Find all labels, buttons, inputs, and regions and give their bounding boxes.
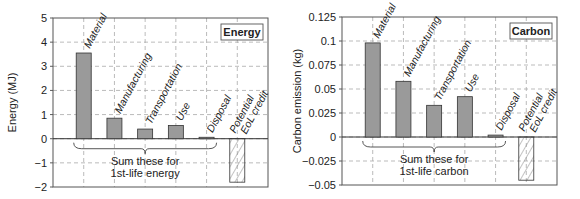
bar-material	[365, 43, 380, 137]
bar-manufacturing	[107, 118, 122, 139]
y-tick-label: 0.025	[308, 107, 336, 119]
bar-material	[76, 53, 91, 139]
category-label: Manufacturing	[401, 14, 443, 79]
y-tick-label: 0.075	[308, 59, 336, 71]
y-tick-label: 0	[41, 133, 47, 145]
bar-use	[168, 125, 183, 138]
category-label: Transportation	[431, 37, 473, 102]
annotation-line-2: 1st-life carbon	[400, 165, 469, 177]
annotation-line-1: Sum these for	[400, 153, 469, 165]
bar-disposal	[488, 135, 503, 137]
annotation-line-1: Sum these for	[111, 155, 180, 167]
energy-chart: 543210−1−2MaterialManufacturingTransport…	[6, 11, 271, 193]
legend-label: Carbon	[512, 25, 551, 37]
y-tick-label: −1	[34, 157, 47, 169]
y-axis-label: Energy (MJ)	[6, 73, 18, 133]
annotation-line-2: 1st-life energy	[111, 167, 181, 179]
y-tick-label: −0.05	[308, 179, 336, 191]
y-tick-label: 0.1	[321, 35, 336, 47]
category-label: Material	[370, 1, 398, 40]
y-axis-label: Carbon emission (kg)	[291, 49, 303, 154]
bar-transportation	[138, 129, 153, 139]
bar-potential-eol-credit	[230, 139, 245, 182]
bar-transportation	[427, 105, 442, 137]
category-label: Material	[81, 11, 109, 50]
y-tick-label: 3	[41, 60, 47, 72]
legend-label: Energy	[223, 26, 261, 38]
y-tick-label: −2	[34, 181, 47, 193]
y-tick-label: 4	[41, 36, 47, 48]
bar-use	[457, 97, 472, 137]
bar-potential-eol-credit	[519, 137, 534, 180]
y-tick-label: 5	[41, 12, 47, 24]
y-tick-label: 1	[41, 109, 47, 121]
y-tick-label: 0.05	[315, 83, 336, 95]
bar-manufacturing	[396, 81, 411, 137]
y-tick-label: 0.125	[308, 11, 336, 23]
y-tick-label: 2	[41, 84, 47, 96]
bar-disposal	[199, 137, 214, 139]
charts-figure: 543210−1−2MaterialManufacturingTransport…	[0, 0, 580, 199]
y-tick-label: 0	[330, 131, 336, 143]
carbon-chart: 0.1250.10.0750.050.0250−0.025−0.05Materi…	[291, 1, 560, 191]
category-label: Manufacturing	[112, 51, 154, 116]
y-tick-label: −0.025	[302, 155, 336, 167]
